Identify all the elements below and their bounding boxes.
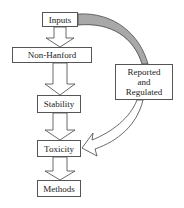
arrow-nonhanford-stability xyxy=(45,63,75,95)
node-reported-and-regulated: Reported and Regulated xyxy=(115,64,173,100)
arrow-stability-toxicity xyxy=(45,113,75,140)
node-toxicity: Toxicity xyxy=(37,140,81,157)
arrow-toxicity-methods xyxy=(45,157,75,180)
node-non-hanford: Non-Hanford xyxy=(12,47,92,63)
curved-arrow-reported-to-toxicity xyxy=(82,100,143,156)
arrow-inputs-nonhanford xyxy=(46,27,74,47)
node-methods: Methods xyxy=(37,180,81,197)
flow-diagram: Inputs Non-Hanford Stability Toxicity Me… xyxy=(0,0,184,208)
node-stability: Stability xyxy=(37,95,81,113)
diagram-connectors xyxy=(0,0,184,208)
node-inputs: Inputs xyxy=(42,12,78,27)
